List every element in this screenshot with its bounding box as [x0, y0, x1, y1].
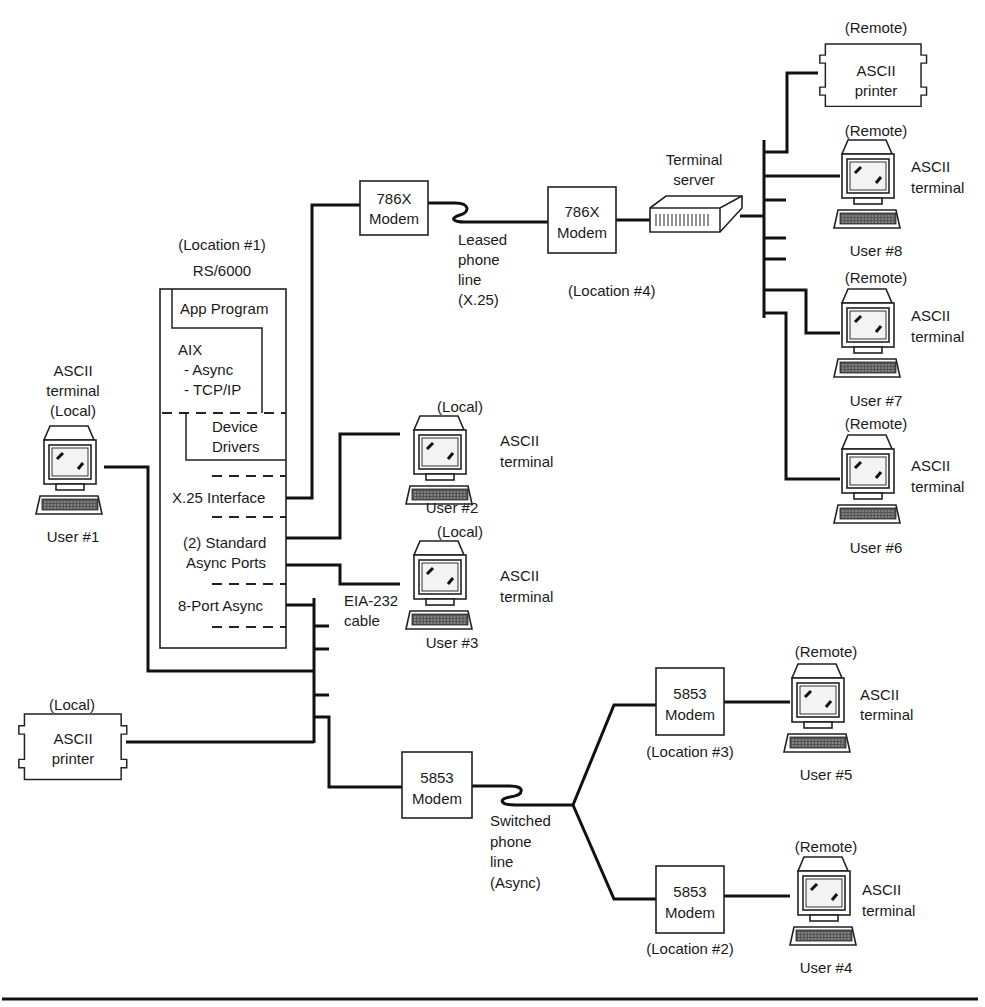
- svg-text:Modem: Modem: [412, 790, 462, 807]
- svg-text:printer: printer: [855, 82, 898, 99]
- svg-text:5853: 5853: [673, 883, 706, 900]
- terminal-icon: [406, 541, 472, 629]
- svg-text:Leased: Leased: [458, 231, 507, 248]
- svg-text:ASCII: ASCII: [862, 881, 901, 898]
- svg-text:(Remote): (Remote): [845, 19, 908, 36]
- terminal-user-4: (Remote) ASCII terminal User #4: [790, 838, 915, 976]
- svg-text:5853: 5853: [673, 685, 706, 702]
- svg-text:ASCII: ASCII: [500, 432, 539, 449]
- svg-text:(Local): (Local): [49, 696, 95, 713]
- standard-ports-label-2: Async Ports: [186, 554, 266, 571]
- app-program-label: App Program: [180, 300, 268, 317]
- svg-text:(Local): (Local): [50, 402, 96, 419]
- svg-text:Modem: Modem: [665, 904, 715, 921]
- terminal-user-2: (Local) ASCII terminal User #2: [406, 398, 553, 516]
- terminal-user-6: (Remote) ASCII terminal User #6: [834, 415, 964, 556]
- network-diagram: (Location #1) RS/6000 App Program AIX - …: [0, 0, 985, 1007]
- svg-text:server: server: [673, 171, 715, 188]
- modem-5853-location-3: 5853 Modem (Location #3): [646, 668, 734, 760]
- x25-interface-label: X.25 Interface: [172, 489, 265, 506]
- terminal-user-3: (Local) ASCII terminal User #3: [406, 523, 553, 651]
- svg-text:(Local): (Local): [437, 523, 483, 540]
- svg-text:Terminal: Terminal: [666, 151, 723, 168]
- location-4-label: (Location #4): [568, 282, 656, 299]
- device-drivers-label-1: Device: [212, 418, 258, 435]
- terminal-server: Terminal server: [650, 151, 742, 232]
- rs6000-system: (Location #1) RS/6000 App Program AIX - …: [160, 236, 286, 648]
- eight-port-label: 8-Port Async: [178, 597, 264, 614]
- printer-local: (Local) ASCII printer: [19, 696, 127, 780]
- svg-text:User #5: User #5: [800, 766, 853, 783]
- svg-text:ASCII: ASCII: [53, 362, 92, 379]
- svg-text:User #1: User #1: [47, 528, 100, 545]
- terminal-user-8: (Remote) ASCII terminal User #8: [834, 122, 964, 259]
- svg-text:phone: phone: [458, 251, 500, 268]
- location-2-label: (Location #2): [646, 940, 734, 957]
- svg-text:printer: printer: [52, 750, 95, 767]
- terminal-icon: [834, 435, 900, 523]
- terminal-icon: [784, 664, 850, 752]
- modem-5853-local: 5853 Modem: [402, 752, 472, 818]
- svg-text:ASCII: ASCII: [911, 307, 950, 324]
- device-drivers-label-2: Drivers: [212, 438, 260, 455]
- printer-remote: (Remote) ASCII printer: [820, 19, 927, 106]
- modem-5853-location-2: 5853 Modem (Location #2): [646, 866, 734, 957]
- terminal-icon: [36, 426, 102, 514]
- svg-text:(Async): (Async): [490, 874, 541, 891]
- svg-text:terminal: terminal: [911, 328, 964, 345]
- svg-text:cable: cable: [344, 612, 380, 629]
- svg-text:User #2: User #2: [426, 499, 479, 516]
- terminal-user-5: (Remote) ASCII terminal User #5: [784, 643, 913, 783]
- terminal-icon: [834, 289, 900, 377]
- svg-text:phone: phone: [490, 833, 532, 850]
- svg-text:terminal: terminal: [46, 382, 99, 399]
- svg-text:786X: 786X: [376, 190, 411, 207]
- svg-text:Modem: Modem: [665, 706, 715, 723]
- aix-label: AIX: [178, 341, 202, 358]
- terminal-icon: [406, 416, 472, 504]
- terminal-user-7: (Remote) ASCII terminal User #7: [834, 269, 964, 409]
- svg-text:5853: 5853: [420, 769, 453, 786]
- svg-text:ASCII: ASCII: [856, 62, 895, 79]
- svg-text:ASCII: ASCII: [860, 686, 899, 703]
- svg-text:User #8: User #8: [850, 242, 903, 259]
- svg-text:User #6: User #6: [850, 539, 903, 556]
- modem-786x-remote: 786X Modem: [548, 187, 616, 253]
- terminal-icon: [834, 140, 900, 228]
- svg-text:ASCII: ASCII: [53, 730, 92, 747]
- terminal-icon: [790, 857, 856, 945]
- svg-text:terminal: terminal: [500, 588, 553, 605]
- svg-text:ASCII: ASCII: [911, 158, 950, 175]
- svg-text:(Remote): (Remote): [845, 122, 908, 139]
- standard-ports-label-1: (2) Standard: [183, 534, 266, 551]
- svg-text:(X.25): (X.25): [458, 291, 499, 308]
- svg-text:(Remote): (Remote): [845, 269, 908, 286]
- svg-text:terminal: terminal: [911, 179, 964, 196]
- svg-text:terminal: terminal: [860, 706, 913, 723]
- aix-async-label: - Async: [184, 361, 234, 378]
- svg-text:EIA-232: EIA-232: [344, 592, 398, 609]
- leased-line-label: Leased phone line (X.25): [458, 231, 507, 308]
- svg-text:ASCII: ASCII: [500, 567, 539, 584]
- svg-text:line: line: [490, 853, 513, 870]
- svg-text:terminal: terminal: [862, 902, 915, 919]
- svg-text:User #7: User #7: [850, 392, 903, 409]
- svg-text:line: line: [458, 271, 481, 288]
- eia-232-label: EIA-232 cable: [344, 592, 398, 629]
- svg-text:(Remote): (Remote): [795, 643, 858, 660]
- terminal-user-1: ASCII terminal (Local) User #1: [36, 362, 102, 545]
- svg-text:Switched: Switched: [490, 812, 551, 829]
- svg-text:User #4: User #4: [800, 959, 853, 976]
- svg-text:Modem: Modem: [369, 210, 419, 227]
- svg-text:786X: 786X: [564, 203, 599, 220]
- svg-text:(Remote): (Remote): [845, 415, 908, 432]
- svg-text:terminal: terminal: [911, 478, 964, 495]
- svg-text:(Remote): (Remote): [795, 838, 858, 855]
- location-3-label: (Location #3): [646, 743, 734, 760]
- svg-text:ASCII: ASCII: [911, 457, 950, 474]
- svg-text:(Local): (Local): [437, 398, 483, 415]
- svg-text:User #3: User #3: [426, 634, 479, 651]
- modem-786x-local: 786X Modem: [360, 181, 428, 235]
- svg-text:terminal: terminal: [500, 453, 553, 470]
- aix-tcpip-label: - TCP/IP: [184, 381, 241, 398]
